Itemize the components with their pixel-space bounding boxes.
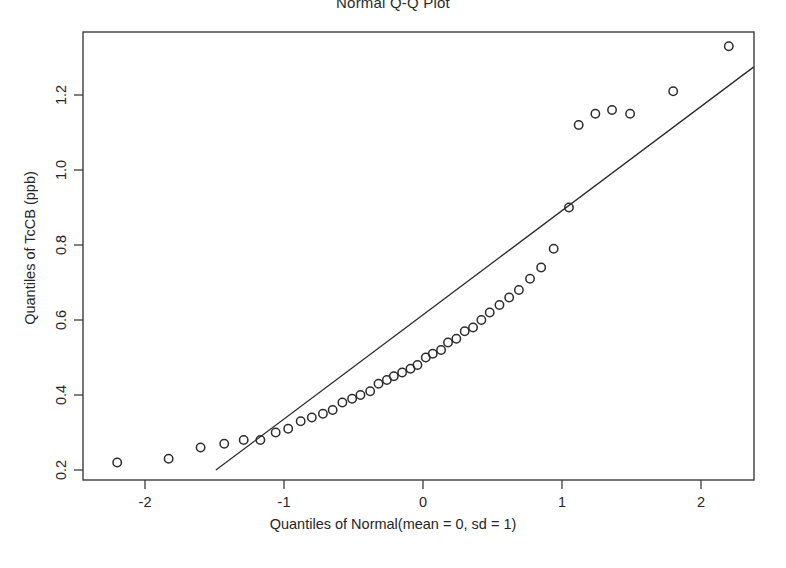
data-point xyxy=(725,42,733,50)
qq-plot-figure: Normal Q-Q Plot Quantiles of TcCB (ppb) … xyxy=(0,0,786,568)
data-point xyxy=(669,87,677,95)
data-point xyxy=(486,308,494,316)
x-axis-ticks: -2-1012 xyxy=(139,480,705,510)
data-points xyxy=(113,42,733,467)
data-point xyxy=(319,410,327,418)
x-tick-label: 2 xyxy=(697,494,705,510)
y-tick-label: 0.6 xyxy=(53,310,69,330)
data-point xyxy=(444,338,452,346)
x-tick-label: -1 xyxy=(278,494,291,510)
data-point xyxy=(461,327,469,335)
data-point xyxy=(505,293,513,301)
data-point xyxy=(477,316,485,324)
data-point xyxy=(390,372,398,380)
data-point xyxy=(328,406,336,414)
data-point xyxy=(413,361,421,369)
y-tick-label: 0.8 xyxy=(53,235,69,255)
data-point xyxy=(515,286,523,294)
data-point xyxy=(549,245,557,253)
data-point xyxy=(374,380,382,388)
data-point xyxy=(271,428,279,436)
data-point xyxy=(526,275,534,283)
data-point xyxy=(308,413,316,421)
y-tick-label: 0.4 xyxy=(53,385,69,405)
data-point xyxy=(284,425,292,433)
plot-canvas: -2-1012 0.20.40.60.81.01.2 xyxy=(0,0,786,568)
data-point xyxy=(574,121,582,129)
y-tick-label: 1.0 xyxy=(53,160,69,180)
x-tick-label: -2 xyxy=(139,494,152,510)
data-point xyxy=(348,395,356,403)
reference-line xyxy=(216,67,754,470)
plot-frame xyxy=(83,32,754,480)
data-point xyxy=(429,350,437,358)
data-point xyxy=(196,443,204,451)
data-point xyxy=(591,110,599,118)
data-point xyxy=(626,110,634,118)
x-tick-label: 0 xyxy=(419,494,427,510)
y-axis-ticks: 0.20.40.60.81.01.2 xyxy=(53,85,83,480)
data-point xyxy=(164,455,172,463)
data-point xyxy=(220,440,228,448)
data-point xyxy=(437,346,445,354)
data-point xyxy=(537,263,545,271)
y-tick-label: 1.2 xyxy=(53,85,69,105)
data-point xyxy=(296,417,304,425)
data-point xyxy=(338,398,346,406)
x-tick-label: 1 xyxy=(558,494,566,510)
data-point xyxy=(366,387,374,395)
data-point xyxy=(608,106,616,114)
data-point xyxy=(113,458,121,466)
data-point xyxy=(495,301,503,309)
data-point xyxy=(469,323,477,331)
data-point xyxy=(398,368,406,376)
data-point xyxy=(239,436,247,444)
data-point xyxy=(452,335,460,343)
y-tick-label: 0.2 xyxy=(53,460,69,480)
data-point xyxy=(356,391,364,399)
